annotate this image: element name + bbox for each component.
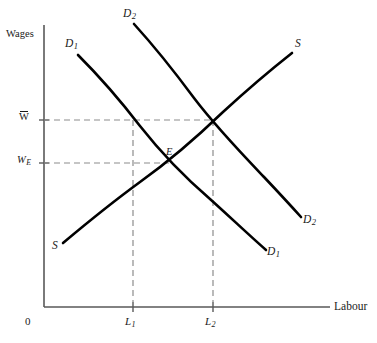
curve-label-s-bottom: S <box>52 240 58 252</box>
w-bar-base: W <box>19 112 29 123</box>
d2-bottom-subscript: 2 <box>311 217 316 227</box>
x-tick-label-l2: L2 <box>205 316 216 329</box>
x-axis-label: Labour <box>334 301 367 313</box>
curve-s <box>63 53 292 243</box>
w-e-base: W <box>17 154 26 165</box>
y-tick-label-w-bar: W <box>19 112 29 123</box>
supply-demand-figure: Wages Labour 0 W WE L1 L2 D1 D1 D2 D2 S … <box>0 0 377 343</box>
x-tick-label-l1: L1 <box>125 316 136 329</box>
y-axis-label: Wages <box>6 29 34 40</box>
l1-subscript: 1 <box>131 320 135 329</box>
d1-top-subscript: 1 <box>73 41 78 51</box>
d2-top-subscript: 2 <box>131 11 136 21</box>
equilibrium-point-label: E <box>166 147 172 158</box>
curve-label-d1-top: D1 <box>65 38 78 51</box>
curve-label-s-top: S <box>295 38 301 50</box>
d1-bottom-subscript: 1 <box>275 249 280 259</box>
w-e-subscript: E <box>26 158 31 167</box>
y-tick-label-w-e: WE <box>17 155 31 167</box>
plot-canvas <box>0 0 377 343</box>
l2-subscript: 2 <box>211 320 215 329</box>
curve-label-d2-bottom: D2 <box>303 214 316 227</box>
origin-label: 0 <box>25 316 31 327</box>
curve-label-d2-top: D2 <box>123 8 136 21</box>
curve-label-d1-bottom: D1 <box>267 246 280 259</box>
